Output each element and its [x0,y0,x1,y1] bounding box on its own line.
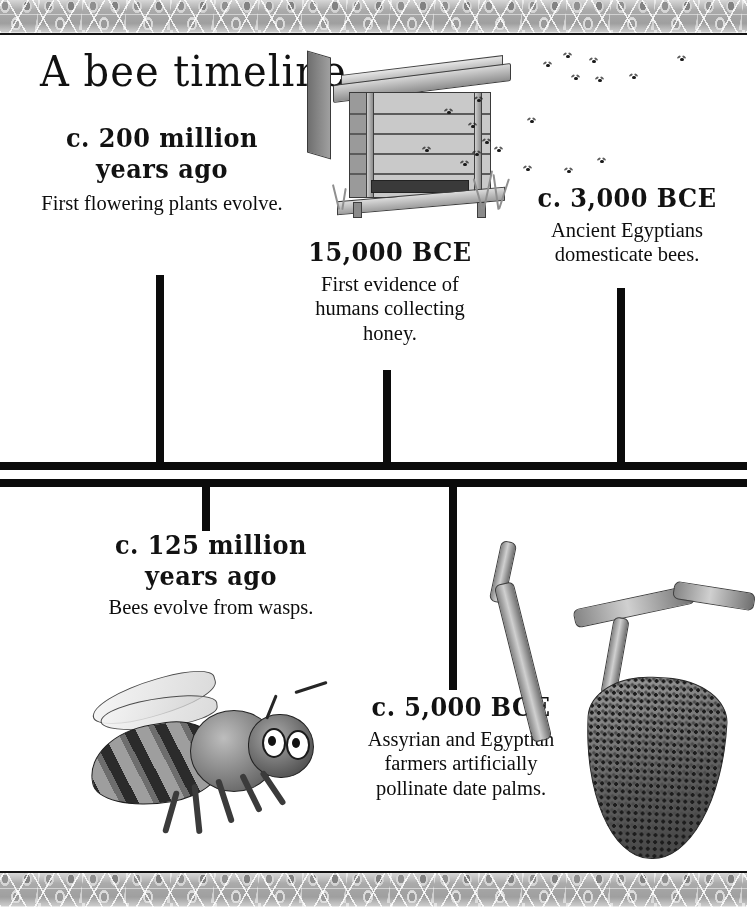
entry-description: Bees evolve from wasps. [96,595,326,619]
bee-icon [678,57,685,62]
entry-description: Ancient Egyptians domesticate bees. [520,218,734,266]
timeline-bar-upper [0,462,747,470]
bee-illustration [72,672,320,858]
timeline-entry-200-million: c. 200 million years ago First flowering… [36,123,288,215]
timeline-entry-15000-bce: 15,000 BCE First evidence of humans coll… [290,237,490,345]
timeline-tick-200-million [156,275,164,465]
entry-description: First flowering plants evolve. [36,191,288,215]
beehive-illustration [327,52,517,217]
timeline-tick-125-million [202,485,210,531]
bee-icon [483,140,490,145]
entry-description: First evidence of humans collecting hone… [290,272,490,345]
entry-date: c. 125 million years ago [96,530,326,592]
bee-antenna-right [294,681,327,694]
bee-icon [475,98,482,103]
timeline-tick-3000-bce [617,288,625,465]
entry-date: 15,000 BCE [290,237,490,268]
bee-icon [461,162,468,167]
bee-icon [572,76,579,81]
bee-icon [473,152,480,157]
bee-pupil-right [292,738,300,748]
bee-pupil-left [268,736,276,746]
honeycomb-border-bottom [0,871,747,907]
timeline-tick-15000-bce [383,370,391,465]
timeline-bar-lower [0,479,747,487]
branch-limb-right [672,581,756,612]
timeline-tick-5000-bce [449,485,457,690]
timeline-entry-3000-bce: c. 3,000 BCE Ancient Egyptians domestica… [520,183,734,267]
bee-icon [469,124,476,129]
bee-icon [445,110,452,115]
timeline-entry-125-million: c. 125 million years ago Bees evolve fro… [96,530,326,619]
hive-side-panel [307,51,331,160]
bee-swarm-cluster [580,673,729,862]
branch-limb-main [494,581,553,743]
bee-icon [590,59,597,64]
bee-icon [630,75,637,80]
bee-icon [598,159,605,164]
entry-date: c. 3,000 BCE [520,183,734,214]
bee-icon [524,167,531,172]
bee-icon [565,169,572,174]
bee-icon [528,119,535,124]
honeycomb-grid-overlay [0,873,747,907]
bee-icon [495,148,502,153]
bee-icon [564,54,571,59]
bee-icon [544,63,551,68]
honeycomb-grid-overlay [0,0,747,33]
bee-icon [596,78,603,83]
entry-date: c. 200 million years ago [36,123,288,185]
bee-icon [423,148,430,153]
swarm-branch-illustration [487,525,747,855]
honeycomb-border-top [0,0,747,35]
flying-bees-cluster [520,45,745,195]
